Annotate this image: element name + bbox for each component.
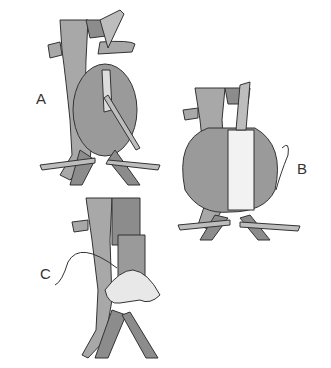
surgical-illustration: A B C bbox=[0, 0, 331, 368]
panel-c-drawing bbox=[55, 198, 160, 358]
panel-b-drawing bbox=[178, 82, 300, 240]
panel-label-c: C bbox=[40, 265, 51, 282]
panel-label-a: A bbox=[36, 90, 46, 107]
panel-a-drawing bbox=[40, 10, 160, 185]
panel-label-b: B bbox=[297, 160, 307, 177]
illustration-canvas bbox=[0, 0, 331, 368]
